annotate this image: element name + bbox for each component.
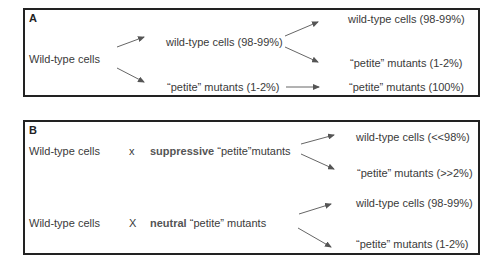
- panel-b-label: B: [29, 124, 37, 136]
- cross-2-partner-bold: neutral: [150, 217, 187, 229]
- panel-a-mid-upper: wild-type cells (98-99%): [166, 36, 283, 48]
- cross-1-partner-rest: “petite”mutants: [214, 145, 290, 157]
- panel-a-mid-lower: “petite” mutants (1-2%): [167, 81, 279, 93]
- cross-2-partner-rest: “petite” mutants: [187, 217, 266, 229]
- panel-a-label: A: [29, 12, 37, 24]
- cross-2-partner: neutral “petite” mutants: [150, 217, 266, 229]
- panel-a-source: Wild-type cells: [29, 53, 100, 65]
- panel-a-right-3: “petite” mutants (100%): [349, 81, 464, 93]
- cross-2-left: Wild-type cells: [29, 217, 100, 229]
- cross-1-outcome-lower: “petite” mutants (>>2%): [357, 167, 473, 179]
- cross-1-outcome-upper: wild-type cells (<<98%): [356, 131, 470, 143]
- cross-1-partner-bold: suppressive: [150, 145, 214, 157]
- cross-1-symbol: x: [129, 145, 135, 157]
- cross-2-outcome-lower: “petite” mutants (1-2%): [356, 238, 468, 250]
- cross-2-outcome-upper: wild-type cells (98-99%): [356, 197, 473, 209]
- cross-1-partner: suppressive “petite”mutants: [150, 145, 291, 157]
- panel-a-right-1: wild-type cells (98-99%): [348, 13, 465, 25]
- cross-2-symbol: X: [129, 217, 136, 229]
- panel-a-right-2: “petite” mutants (1-2%): [350, 57, 462, 69]
- cross-1-left: Wild-type cells: [29, 145, 100, 157]
